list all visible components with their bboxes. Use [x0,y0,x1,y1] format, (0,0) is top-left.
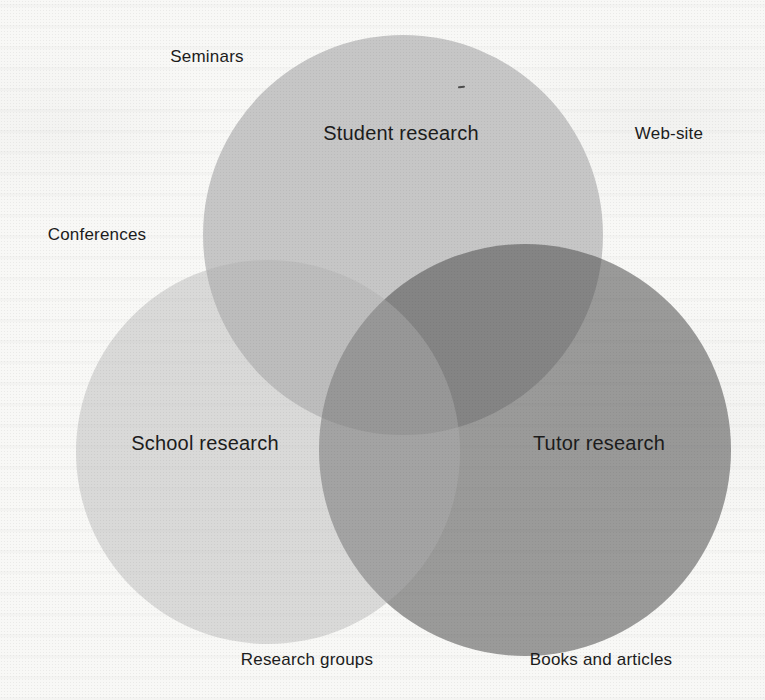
label-conferences: Conferences [48,225,147,245]
label-research-groups: Research groups [241,650,373,670]
label-web-site: Web-site [635,124,703,144]
label-tutor-research: Tutor research [533,432,665,455]
label-student-research: Student research [323,122,479,145]
label-school-research: School research [131,432,279,455]
label-books-and-articles: Books and articles [530,650,673,670]
label-seminars: Seminars [170,47,243,67]
venn-diagram-figure: Seminars Web-site Conferences Student re… [0,0,765,700]
